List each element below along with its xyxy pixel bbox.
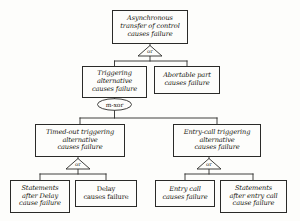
timed-out-or-gate-label: or bbox=[72, 162, 84, 167]
m-xor-gate-label: m-xor bbox=[99, 101, 130, 108]
node-line: causes failure bbox=[162, 194, 207, 202]
node-delay-causes-failure: Delay causes failure bbox=[75, 180, 137, 207]
node-line: causes failure bbox=[83, 194, 128, 202]
entry-call-or-gate-label: or bbox=[203, 162, 215, 167]
node-line: causes failure bbox=[127, 31, 172, 39]
node-line: causes failure bbox=[92, 86, 137, 94]
node-line: causes failure bbox=[194, 144, 239, 152]
node-entry-call-causes-failure: Entry call causes failure bbox=[155, 180, 215, 207]
node-line: cause failure bbox=[19, 200, 61, 208]
node-asynchronous-transfer-of-control: Asynchronous transfer of control causes … bbox=[112, 10, 188, 44]
node-line: causes failure bbox=[164, 80, 209, 88]
node-line: causes failure bbox=[57, 144, 102, 152]
node-line: cause failure bbox=[233, 200, 275, 208]
node-statements-after-delay: Statements after Delay cause failure bbox=[10, 180, 70, 213]
root-or-gate-label: or bbox=[144, 49, 156, 54]
node-entry-call-triggering-alternative: Entry-call triggering alternative causes… bbox=[173, 124, 261, 157]
node-statements-after-entry-call: Statements after entry call cause failur… bbox=[220, 180, 287, 213]
node-abortable-part: Abortable part causes failure bbox=[154, 66, 220, 94]
fault-tree-diagram: or or or m-xor Asynchronous transfer of … bbox=[0, 0, 300, 221]
node-triggering-alternative: Triggering alternative causes failure bbox=[82, 66, 147, 98]
node-timed-out-triggering-alternative: Timed-out triggering alternative causes … bbox=[35, 124, 125, 157]
